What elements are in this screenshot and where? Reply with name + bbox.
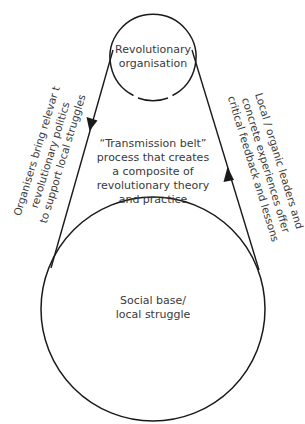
node-label-line: Revolutionary [115,43,191,57]
center-label-line: “Transmission belt” [97,137,209,151]
revolutionary-organisation-label: Revolutionary organisation [115,43,191,71]
down-arrow-icon [87,117,98,131]
center-label-line: revolutionary theory [97,179,209,193]
center-label-line: process that creates [97,151,209,165]
center-label-line: a composite of [97,165,209,179]
node-label-line: local struggle [116,308,190,322]
social-base-label: Social base/ local struggle [116,294,190,322]
node-label-line: organisation [115,57,191,71]
transmission-belt-label: “Transmission belt” process that creates… [97,137,209,207]
node-label-line: Social base/ [116,294,190,308]
center-label-line: and practice [97,193,209,207]
